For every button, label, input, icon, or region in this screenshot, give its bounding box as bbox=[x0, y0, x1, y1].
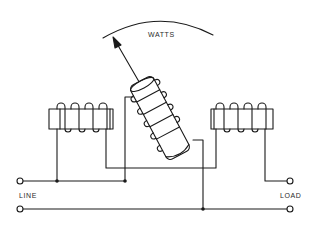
junction-dot bbox=[55, 179, 59, 183]
wire-moving-coil-to-return bbox=[193, 140, 203, 209]
line-label: LINE bbox=[19, 192, 37, 199]
scale-label: WATTS bbox=[148, 31, 175, 38]
load-label: LOAD bbox=[280, 192, 301, 199]
wire-right-coil-to-load bbox=[265, 129, 287, 181]
load-terminal-top bbox=[287, 178, 293, 184]
pointer-arrowhead bbox=[113, 37, 121, 48]
junction-dot bbox=[201, 207, 205, 211]
load-terminal-bottom bbox=[287, 206, 293, 212]
wattmeter-diagram: WATTS LINE LOAD bbox=[0, 0, 318, 231]
fixed-coil-left bbox=[49, 103, 113, 132]
fixed-coil-right bbox=[211, 103, 273, 132]
line-terminal-bottom bbox=[17, 206, 23, 212]
moving-coil bbox=[125, 73, 194, 163]
line-terminal-top bbox=[17, 178, 23, 184]
junction-dot bbox=[123, 179, 127, 183]
